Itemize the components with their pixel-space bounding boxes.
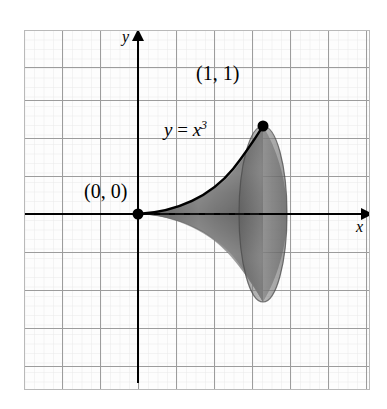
curve-label-exponent: 3: [201, 118, 207, 132]
axis-label-x: x: [356, 218, 363, 236]
label-point-1-1: (1, 1): [196, 62, 239, 85]
label-point-0-0: (0, 0): [84, 180, 127, 203]
curve-label-x: x: [193, 119, 201, 140]
solid-of-revolution-figure: (1, 1) (0, 0) y = x3 x y: [0, 0, 387, 409]
label-layer: (1, 1) (0, 0) y = x3 x y: [0, 0, 387, 409]
axis-label-y: y: [122, 28, 129, 46]
curve-label-equals: =: [172, 119, 192, 140]
label-curve-equation: y = x3: [164, 118, 207, 141]
